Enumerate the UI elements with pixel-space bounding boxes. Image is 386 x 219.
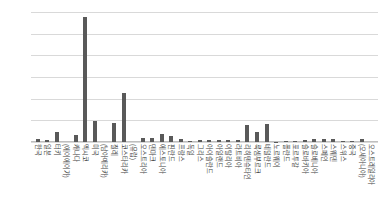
x-axis-label-slot: 중국 (348, 143, 358, 217)
bar-slot (119, 12, 129, 142)
bar[interactable] (360, 139, 364, 142)
x-axis-label-slot: 폴란드 (281, 143, 291, 217)
x-axis-label-slot: (남아메리카) (100, 143, 110, 217)
bar-slot (252, 12, 262, 142)
x-axis-label: 핀란드 (168, 144, 175, 162)
bar[interactable] (169, 136, 173, 142)
bar-slot (319, 12, 329, 142)
x-axis-label-slot: 포르투갈 (290, 143, 300, 217)
x-axis-label: 에스토니아 (158, 144, 165, 174)
bar[interactable] (45, 140, 49, 142)
x-axis-label-slot: 코스타리카 (119, 143, 129, 217)
bar[interactable] (293, 141, 297, 142)
bar[interactable] (255, 132, 259, 142)
bar[interactable] (112, 123, 116, 142)
x-axis-label-slot: 라트비아 (233, 143, 243, 217)
x-axis-label: 캐나다 (73, 144, 80, 162)
bar[interactable] (74, 135, 78, 142)
x-axis-label-slot: 네덜란드 (262, 143, 272, 217)
bar-slot (71, 12, 81, 142)
bar[interactable] (122, 93, 126, 142)
x-axis-label: 아이슬란드 (206, 144, 213, 174)
x-axis-label: 코스타리카 (120, 144, 127, 174)
bar-slot (367, 12, 377, 142)
x-axis-label-slot: 미국 (90, 143, 100, 217)
x-axis-label-slot: 아일랜드 (214, 143, 224, 217)
bar[interactable] (141, 138, 145, 142)
bar-slot (300, 12, 310, 142)
x-axis-label: 터키 (54, 144, 61, 156)
bar[interactable] (331, 139, 335, 142)
bar[interactable] (207, 140, 211, 142)
x-axis-label: 룩셈부르크 (254, 144, 261, 174)
x-axis-label-slot: 일본 (43, 143, 53, 217)
bar[interactable] (236, 140, 240, 142)
bar[interactable] (198, 140, 202, 142)
bar-slot (109, 12, 119, 142)
bar[interactable] (93, 121, 97, 142)
bar[interactable] (160, 134, 164, 142)
bar[interactable] (150, 138, 154, 142)
bar[interactable] (36, 139, 40, 142)
bar-slot (290, 12, 300, 142)
x-axis-label: 슬로베니아 (311, 144, 318, 174)
bar[interactable] (83, 17, 87, 142)
x-axis-label-slot: 프랑스 (176, 143, 186, 217)
x-axis-label-slot: 리히텐슈타인 (243, 143, 253, 217)
bar-slot (224, 12, 234, 142)
x-axis-label: 오스트리아 (139, 144, 146, 174)
x-axis-label: 그리스 (197, 144, 204, 162)
bar-slot (147, 12, 157, 142)
x-axis-label-slot: 칠레 (109, 143, 119, 217)
x-axis-label: 오스트레일리아 (368, 144, 375, 185)
bar[interactable] (265, 124, 269, 142)
bar-slot (166, 12, 176, 142)
x-axis-label-slot: (에이에이가) (62, 143, 72, 217)
bar-slot (205, 12, 215, 142)
x-axis-label-slot: 오스트레일리아 (367, 143, 377, 217)
x-axis-label: 이탈리아 (225, 144, 232, 168)
bar[interactable] (188, 141, 192, 142)
x-axis-label: 스웨덴 (330, 144, 337, 162)
bar[interactable] (226, 140, 230, 142)
bar[interactable] (312, 139, 316, 142)
bar-slot (186, 12, 196, 142)
bar-slot (90, 12, 100, 142)
x-axis-label-slot: (유럽) (128, 143, 138, 217)
x-axis-label-slot: 멕시코 (81, 143, 91, 217)
bar-slot (338, 12, 348, 142)
x-axis-label: 노르웨이 (273, 144, 280, 168)
x-axis-label: (에이에이가) (63, 144, 70, 178)
bar[interactable] (350, 141, 354, 142)
x-axis-label: 칠레 (111, 144, 118, 156)
bar-slot (243, 12, 253, 142)
bar[interactable] (341, 141, 345, 142)
bar-slot (100, 12, 110, 142)
bar-slot (128, 12, 138, 142)
x-axis-label-slot: 슬로베니아 (309, 143, 319, 217)
x-axis-label-slot: 에스토니아 (157, 143, 167, 217)
plot-area (31, 12, 378, 142)
bar[interactable] (322, 139, 326, 142)
bar[interactable] (179, 139, 183, 142)
bar[interactable] (284, 141, 288, 142)
x-axis-labels: 한국일본터키(에이에이가)캐나다멕시코미국(남아메리카)칠레코스타리카(유럽)오… (31, 143, 378, 217)
bar[interactable] (55, 132, 59, 142)
x-axis-label: 네덜란드 (263, 144, 270, 168)
bar[interactable] (303, 140, 307, 142)
x-axis-label: 포르투갈 (292, 144, 299, 168)
x-axis-label-slot: 슬로바키아 (300, 143, 310, 217)
bar-slot (357, 12, 367, 142)
x-axis-label: 아일랜드 (216, 144, 223, 168)
bar-slot (138, 12, 148, 142)
bar-slot (271, 12, 281, 142)
x-axis-label-slot: 독일 (186, 143, 196, 217)
x-axis-label: (오세아니아) (359, 144, 366, 178)
x-axis-label-slot: (오세아니아) (357, 143, 367, 217)
x-axis-label-slot: 그리스 (195, 143, 205, 217)
x-axis-label-slot: 노르웨이 (271, 143, 281, 217)
bar[interactable] (217, 140, 221, 142)
bar-slot (176, 12, 186, 142)
bar[interactable] (245, 125, 249, 142)
x-axis-label: 슬로바키아 (301, 144, 308, 174)
